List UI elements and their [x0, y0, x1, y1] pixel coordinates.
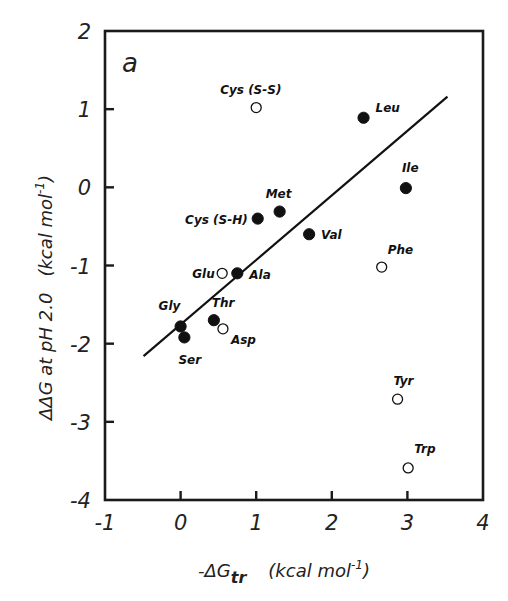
x-tick-label: 2 — [325, 511, 338, 535]
point-label: Phe — [388, 243, 413, 257]
point-label: Ile — [402, 161, 419, 175]
y-tick-label: -4 — [70, 489, 91, 513]
open-point — [393, 394, 403, 404]
point-label: Cys (S-S) — [220, 83, 281, 97]
y-tick-label: 1 — [78, 98, 91, 122]
point-label: Ser — [178, 353, 202, 367]
point-label: Leu — [376, 101, 401, 115]
point-label: Trp — [414, 442, 436, 456]
axis-ticks: -4-3-2-1012-101234 — [70, 20, 490, 535]
filled-point — [175, 321, 186, 332]
open-point — [251, 103, 261, 113]
open-point — [217, 268, 227, 278]
point-label: Asp — [230, 333, 256, 347]
filled-point — [274, 206, 285, 217]
filled-point — [179, 332, 190, 343]
y-tick-label: -1 — [70, 255, 91, 279]
y-tick-label: 0 — [78, 176, 91, 200]
x-axis-label: -ΔGtr(kcal mol-1) — [198, 558, 370, 587]
filled-point — [400, 183, 411, 194]
open-point — [403, 463, 413, 473]
open-point — [218, 324, 228, 334]
plot-border — [105, 31, 483, 500]
y-tick-label: -3 — [70, 411, 91, 435]
plot-frame — [105, 31, 483, 500]
y-axis-label: ΔΔG at pH 2.0(kcal mol-1) — [33, 175, 56, 422]
x-tick-label: 3 — [401, 511, 414, 535]
x-tick-label: 4 — [476, 511, 489, 535]
y-tick-label: -2 — [70, 333, 91, 357]
scatter-chart: LeuIleMetCys (S-H)ValAlaThrGlySerCys (S-… — [0, 0, 508, 601]
filled-point — [232, 268, 243, 279]
filled-point — [304, 229, 315, 240]
point-label: Val — [321, 228, 342, 242]
filled-point — [208, 315, 219, 326]
point-label: Ala — [248, 268, 270, 282]
point-label: Thr — [212, 296, 236, 310]
panel-label: a — [122, 48, 138, 78]
filled-point — [252, 213, 263, 224]
filled-point — [358, 112, 369, 123]
point-label: Gly — [159, 299, 182, 313]
point-label: Met — [266, 187, 293, 201]
x-tick-label: -1 — [95, 511, 116, 535]
y-tick-label: 2 — [78, 20, 91, 44]
point-label: Cys (S-H) — [185, 213, 248, 227]
x-tick-label: 0 — [174, 511, 187, 535]
point-label: Glu — [192, 267, 215, 281]
x-tick-label: 1 — [250, 511, 263, 535]
open-point — [377, 262, 387, 272]
point-label: Tyr — [394, 374, 415, 388]
